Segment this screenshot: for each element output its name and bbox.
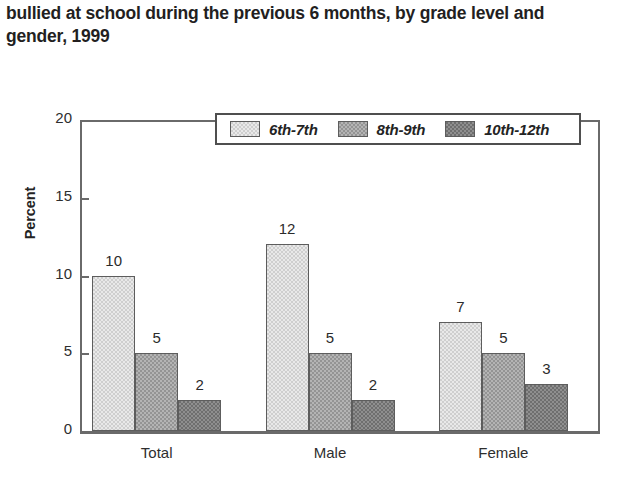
legend-swatch-icon [230,121,260,137]
chart-legend: 6th-7th8th-9th10th-12th [215,113,581,145]
bar-value-label: 12 [256,220,319,237]
bar-female-10th-12th [525,384,568,431]
legend-item-10th-12th[interactable]: 10th-12th [445,121,549,138]
y-tick-mark [80,431,89,433]
y-tick-label: 10 [28,265,72,282]
bar-value-label: 7 [429,298,492,315]
y-tick-mark [80,353,89,355]
x-axis-label-male: Male [280,444,380,461]
y-tick-label: 20 [28,109,72,126]
bar-value-label: 2 [168,376,231,393]
bar-value-label: 5 [125,329,188,346]
chart-title: bullied at school during the previous 6 … [6,2,606,48]
bar-value-label: 3 [515,360,578,377]
y-tick-mark [80,120,89,122]
y-tick-label: 5 [28,342,72,359]
y-tick-label: 15 [28,187,72,204]
legend-swatch-icon [445,121,475,137]
y-tick-label: 0 [28,420,72,437]
bar-value-label: 5 [472,329,535,346]
legend-label: 8th-9th [377,121,426,138]
x-axis-label-female: Female [453,444,553,461]
legend-swatch-icon [338,121,368,137]
legend-item-6th-7th[interactable]: 6th-7th [230,121,318,138]
bar-value-label: 10 [82,252,145,269]
legend-label: 10th-12th [484,121,549,138]
legend-item-8th-9th[interactable]: 8th-9th [338,121,426,138]
y-tick-mark [80,198,89,200]
legend-label: 6th-7th [269,121,318,138]
bar-value-label: 5 [299,329,362,346]
bar-total-10th-12th [178,400,221,431]
bar-value-label: 2 [342,376,405,393]
x-axis-label-total: Total [107,444,207,461]
bar-total-6th-7th [92,276,135,432]
bar-male-10th-12th [352,400,395,431]
y-tick-mark [80,276,89,278]
y-axis-title: Percent [22,153,38,273]
